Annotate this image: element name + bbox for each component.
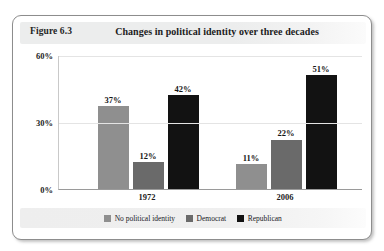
bar-value-label: 11% xyxy=(243,153,260,163)
plot-area: 37%12%42%11%22%51% xyxy=(58,56,362,190)
bar-value-label: 37% xyxy=(105,95,122,105)
legend-label: Republican xyxy=(248,214,282,223)
bar-rect[interactable] xyxy=(306,75,337,189)
legend-item[interactable]: No political identity xyxy=(104,214,175,223)
bar-rect[interactable] xyxy=(236,164,267,189)
chart-plot-region: 0%30%60% 37%12%42%11%22%51% 19722006 xyxy=(20,50,366,202)
legend-swatch-icon xyxy=(104,215,111,222)
chart-title: Changes in political identity over three… xyxy=(20,26,362,37)
y-axis-tick: 60% xyxy=(36,51,53,61)
legend-swatch-icon xyxy=(237,215,244,222)
chart-legend: No political identityDemocratRepublican xyxy=(20,208,366,228)
bar-value-label: 22% xyxy=(278,128,295,138)
legend-item[interactable]: Democrat xyxy=(186,214,226,223)
bar-rect[interactable] xyxy=(98,106,129,189)
bar-value-label: 51% xyxy=(313,64,330,74)
bar-value-label: 12% xyxy=(140,151,157,161)
legend-swatch-icon xyxy=(186,215,193,222)
bar-rect[interactable] xyxy=(168,95,199,189)
bar-value-label: 42% xyxy=(175,84,192,94)
legend-label: No political identity xyxy=(115,214,175,223)
figure-header-band: Figure 6.3 Changes in political identity… xyxy=(20,22,366,44)
bar-rect[interactable] xyxy=(133,162,164,189)
bar-rect[interactable] xyxy=(271,140,302,189)
gridline xyxy=(59,56,362,57)
figure-card: Figure 6.3 Changes in political identity… xyxy=(12,15,372,240)
y-axis: 0%30%60% xyxy=(20,50,56,190)
y-axis-tick: 0% xyxy=(40,185,53,195)
x-axis-label-2006: 2006 xyxy=(277,192,294,202)
gridline xyxy=(59,123,362,124)
x-axis-label-1972: 1972 xyxy=(139,192,156,202)
y-axis-tick: 30% xyxy=(36,118,53,128)
legend-item[interactable]: Republican xyxy=(237,214,282,223)
legend-label: Democrat xyxy=(197,214,227,223)
